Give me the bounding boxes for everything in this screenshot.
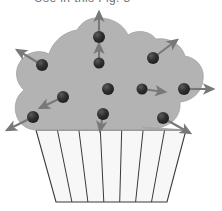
particle-11: [157, 112, 169, 124]
cup-body: [36, 130, 186, 202]
particle-4: [147, 52, 159, 64]
paper-cup: [36, 130, 186, 202]
caption-text: Use in this Fig. 8: [34, 0, 131, 5]
particle-2: [94, 58, 105, 69]
particle-9: [97, 108, 109, 120]
particle-5: [102, 83, 114, 95]
muffin-diagram: [0, 0, 222, 211]
particle-6: [137, 84, 148, 95]
muffin-top: [15, 18, 203, 130]
muffin-top-shape: [15, 18, 203, 130]
particle-3: [36, 59, 48, 71]
particle-7: [178, 83, 190, 95]
particle-1: [93, 31, 105, 43]
particle-8: [57, 91, 69, 103]
caption-strip: Use in this Fig. 8: [0, 0, 222, 6]
particle-10: [27, 111, 39, 123]
figure-root: Use in this Fig. 8: [0, 0, 222, 211]
